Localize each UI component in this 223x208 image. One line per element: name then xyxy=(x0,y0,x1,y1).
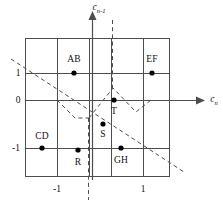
region-label-r: R xyxy=(75,158,82,168)
y-tick-label-neg1: -1 xyxy=(12,144,20,154)
region-label-ab: AB xyxy=(67,55,81,65)
x-axis-arrowhead xyxy=(196,97,205,105)
point-AB xyxy=(71,70,76,75)
dashed-antidiagonal-line xyxy=(11,59,184,172)
point-R xyxy=(75,147,80,152)
region-label-ef: EF xyxy=(146,55,158,65)
point-EF xyxy=(149,70,154,75)
dashed-zigzag-boundary xyxy=(57,88,151,118)
x-axis-title: cn xyxy=(210,95,217,106)
y-axis-title-sub: n-1 xyxy=(97,7,106,14)
diagram-canvas xyxy=(0,0,223,208)
region-label-gh: GH xyxy=(114,156,128,166)
x-tick-label-1: 1 xyxy=(141,185,146,195)
x-tick-label-neg1: -1 xyxy=(53,185,61,195)
partition-diagram: AB EF T CD S GH R 1 0 -1 -1 1 cn-1 cn xyxy=(0,0,223,208)
x-axis-title-sub: n xyxy=(214,99,217,106)
region-label-t: T xyxy=(111,107,117,117)
point-CD xyxy=(39,145,44,150)
point-T xyxy=(111,97,116,102)
region-label-s: S xyxy=(100,130,105,140)
point-GH xyxy=(118,145,123,150)
point-S xyxy=(100,121,105,126)
y-axis-title: cn-1 xyxy=(93,3,106,14)
region-label-cd: CD xyxy=(35,132,49,142)
y-tick-label-0: 0 xyxy=(16,96,21,106)
y-tick-label-1: 1 xyxy=(16,69,21,79)
